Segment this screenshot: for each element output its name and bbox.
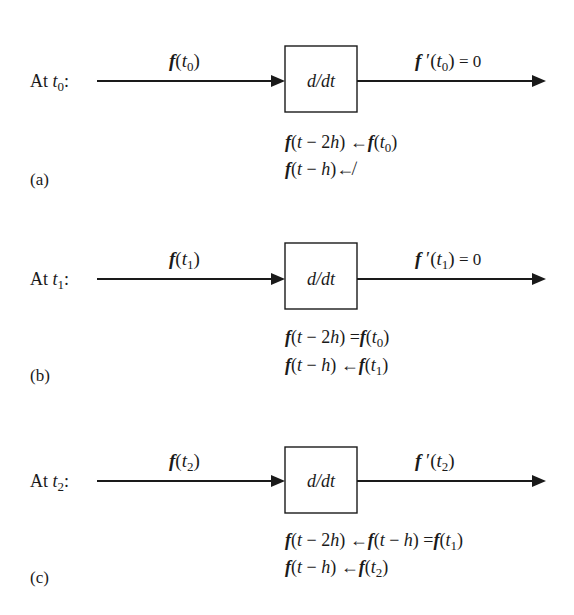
buffer-equation: f(t − 2h) ←f(t − h) =f(t1) — [285, 530, 463, 553]
output-arrowhead-icon — [532, 475, 546, 487]
derivative-block-label: d/dt — [307, 471, 336, 491]
time-label: At t0: — [30, 71, 69, 94]
time-label: At t2: — [30, 471, 69, 494]
derivative-block-label: d/dt — [307, 71, 336, 91]
output-signal-label: f ′(t0) = 0 — [415, 50, 481, 74]
output-signal-label: f ′(t2) — [415, 450, 455, 474]
panel-b: At t1:f(t1)d/dtf ′(t1) = 0f(t − 2h) =f(t… — [30, 243, 546, 385]
buffer-equation: f(t − h) ←f(t1) — [285, 355, 388, 378]
input-arrowhead-icon — [271, 75, 285, 87]
buffer-equation: f(t − 2h) ←f(t0) — [285, 132, 397, 155]
derivative-block-label: d/dt — [307, 269, 336, 289]
input-signal-label: f(t2) — [169, 450, 200, 474]
buffer-equation: f(t − h) ←f(t2) — [285, 557, 388, 580]
output-signal-label: f ′(t1) = 0 — [415, 248, 481, 272]
derivative-block-diagram: At t0:f(t0)d/dtf ′(t0) = 0f(t − 2h) ←f(t… — [0, 0, 574, 615]
input-arrowhead-icon — [271, 475, 285, 487]
output-arrowhead-icon — [532, 273, 546, 285]
buffer-equation: f(t − 2h) =f(t0) — [285, 327, 389, 350]
input-signal-label: f(t0) — [169, 50, 200, 74]
buffer-equation: f(t − h)↚ — [285, 159, 357, 180]
panel-a: At t0:f(t0)d/dtf ′(t0) = 0f(t − 2h) ←f(t… — [30, 46, 546, 189]
panel-tag: (c) — [30, 568, 49, 587]
panel-tag: (a) — [30, 170, 49, 189]
panel-tag: (b) — [30, 366, 50, 385]
input-arrowhead-icon — [271, 273, 285, 285]
panel-c: At t2:f(t2)d/dtf ′(t2)f(t − 2h) ←f(t − h… — [30, 447, 546, 587]
time-label: At t1: — [30, 269, 69, 292]
output-arrowhead-icon — [532, 75, 546, 87]
input-signal-label: f(t1) — [169, 248, 200, 272]
